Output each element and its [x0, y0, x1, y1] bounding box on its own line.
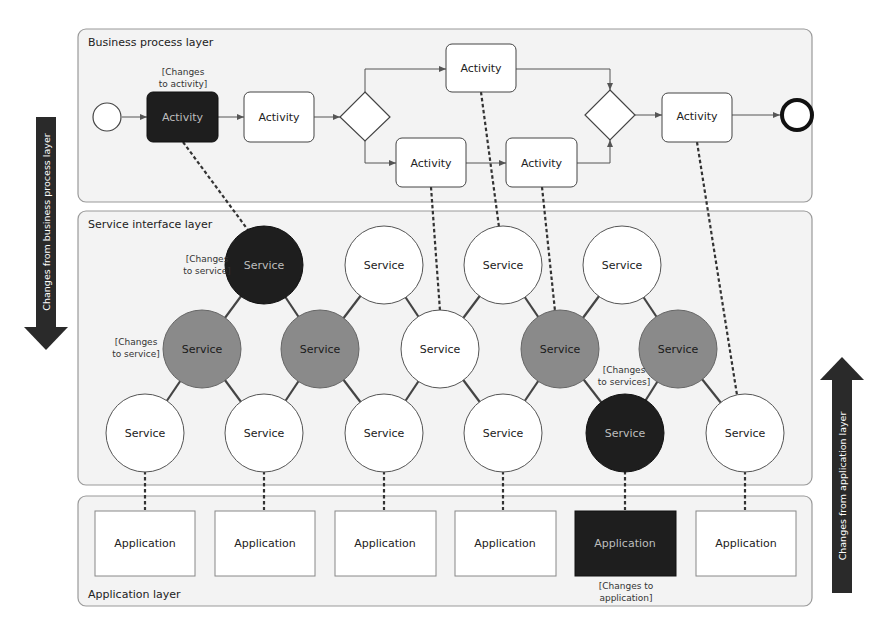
activity-changed: Activity — [147, 92, 218, 142]
service-layer-label: Service interface layer — [88, 218, 213, 231]
service: Service — [106, 394, 184, 472]
svg-text:Service: Service — [244, 259, 285, 272]
business-layer-label: Business process layer — [88, 36, 214, 49]
svg-text:Activity: Activity — [410, 157, 452, 170]
layered-architecture-diagram: Business process layer Service interface… — [0, 0, 884, 636]
application: Application — [95, 511, 195, 576]
svg-text:Application: Application — [474, 537, 535, 550]
svg-text:Service: Service — [483, 427, 524, 440]
svg-text:Service: Service — [483, 259, 524, 272]
end-event — [782, 100, 812, 130]
svg-text:Activity: Activity — [521, 157, 563, 170]
service: Service — [706, 394, 784, 472]
svg-text:Service: Service — [182, 343, 223, 356]
application: Application — [696, 511, 796, 576]
activity: Activity — [244, 92, 314, 142]
right-up-arrow: Changes from application layer — [820, 357, 864, 593]
svg-text:Application: Application — [715, 537, 776, 550]
svg-text:Activity: Activity — [460, 62, 502, 75]
left-arrow-label: Changes from business process layer — [41, 133, 52, 310]
service-affected: Service — [163, 310, 241, 388]
svg-text:Service: Service — [364, 427, 405, 440]
service-changed: Service — [225, 226, 303, 304]
svg-text:Application: Application — [594, 537, 655, 550]
service-annotation-line1: [Changes — [186, 254, 229, 264]
service: Service — [401, 310, 479, 388]
svg-text:Application: Application — [354, 537, 415, 550]
svg-text:Application: Application — [234, 537, 295, 550]
svg-text:Service: Service — [605, 427, 646, 440]
svg-text:Service: Service — [602, 259, 643, 272]
service-affected: Service — [521, 310, 599, 388]
service: Service — [464, 226, 542, 304]
application-changed: Application — [575, 511, 676, 576]
activity: Activity — [662, 93, 732, 142]
service-annotation-line1: [Changes — [115, 337, 158, 347]
svg-text:Service: Service — [125, 427, 166, 440]
application: Application — [335, 511, 436, 576]
service: Service — [583, 226, 661, 304]
start-event — [93, 103, 121, 131]
application-annotation-line1: [Changes to — [599, 581, 654, 591]
activity: Activity — [396, 138, 466, 187]
activity: Activity — [506, 138, 577, 187]
svg-text:Service: Service — [244, 427, 285, 440]
svg-text:Activity: Activity — [676, 110, 718, 123]
right-arrow-label: Changes from application layer — [837, 412, 848, 561]
service-annotation-line2: to service] — [183, 266, 231, 276]
service-changed: Service — [586, 394, 664, 472]
svg-text:Service: Service — [420, 343, 461, 356]
activity-annotation-line2: to activity] — [159, 79, 208, 89]
application-layer-label: Application layer — [88, 588, 181, 601]
service-annotation-line2: to service] — [112, 349, 160, 359]
svg-text:Activity: Activity — [258, 111, 300, 124]
svg-text:Application: Application — [114, 537, 175, 550]
application-annotation-line2: application] — [599, 593, 652, 603]
service-affected: Service — [281, 310, 359, 388]
service-annotation-line1: [Changes — [603, 365, 646, 375]
service-annotation-line2: to services] — [598, 377, 650, 387]
svg-text:Service: Service — [540, 343, 581, 356]
service: Service — [345, 226, 423, 304]
activity-annotation-line1: [Changes — [162, 67, 205, 77]
svg-text:Service: Service — [364, 259, 405, 272]
svg-text:Service: Service — [300, 343, 341, 356]
activity-label: Activity — [162, 111, 204, 124]
left-down-arrow: Changes from business process layer — [24, 117, 68, 350]
svg-text:Service: Service — [658, 343, 699, 356]
service-affected: Service — [639, 310, 717, 388]
service: Service — [345, 394, 423, 472]
application: Application — [215, 511, 315, 576]
svg-text:Service: Service — [725, 427, 766, 440]
service: Service — [225, 394, 303, 472]
application: Application — [455, 511, 556, 576]
activity: Activity — [446, 44, 516, 92]
service: Service — [464, 394, 542, 472]
